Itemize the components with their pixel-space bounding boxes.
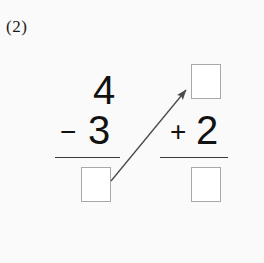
- left-equals-rule: [55, 157, 120, 158]
- worksheet-canvas: (2) 4 − 3 + 2: [0, 0, 264, 263]
- right-top-operand-box[interactable]: [191, 64, 221, 99]
- left-answer-box[interactable]: [81, 167, 111, 202]
- minus-sign-icon: −: [60, 118, 76, 146]
- right-equals-rule: [160, 157, 228, 158]
- right-addend-digit: 2: [196, 110, 218, 150]
- transfer-arrow-layer: [0, 0, 264, 263]
- problem-number-label: (2): [6, 18, 27, 35]
- left-subtrahend-digit: 3: [88, 110, 110, 150]
- plus-sign-icon: +: [170, 118, 186, 146]
- right-answer-box[interactable]: [191, 167, 221, 202]
- left-minuend-digit: 4: [93, 70, 115, 110]
